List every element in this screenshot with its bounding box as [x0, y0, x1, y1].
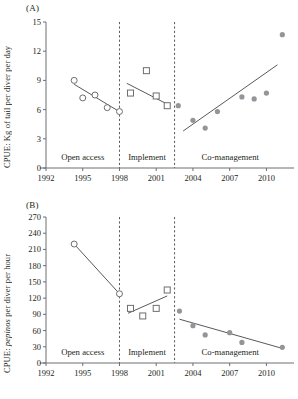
x-tick-label: 2007 [221, 368, 238, 378]
x-tick-label: 2007 [221, 173, 238, 183]
x-tick-label: 2010 [258, 368, 275, 378]
trend-line [74, 244, 119, 294]
zone-label: Implement [128, 152, 166, 162]
data-point-filled-circle [239, 340, 244, 345]
y-tick-label: 0 [37, 358, 41, 368]
zone-label: Co-management [202, 152, 260, 162]
x-tick-label: 1998 [111, 173, 128, 183]
y-tick-label: 90 [33, 309, 42, 319]
panel-a: (A) CPUE: Kg of tail per diver per day 0… [0, 0, 298, 199]
data-point-open-square [127, 90, 133, 96]
trend-line [183, 65, 277, 131]
x-tick-label: 2004 [184, 368, 202, 378]
data-point-open-square [164, 287, 170, 293]
data-point-open-square [140, 313, 146, 319]
zone-label: Co-management [202, 347, 260, 357]
x-tick-label: 1992 [38, 368, 55, 378]
panel-b: (B) CPUE: pepinos per diver per hour 030… [0, 199, 298, 398]
zone-label: Implement [128, 347, 166, 357]
y-tick-label: 150 [28, 277, 41, 287]
data-point-open-square [143, 68, 149, 74]
panel-a-plot-area: 036912151992199519982001200420072010Open… [0, 0, 298, 199]
y-tick-label: 3 [37, 134, 41, 144]
y-tick-label: 9 [37, 75, 41, 85]
data-point-filled-circle [280, 345, 285, 350]
x-tick-label: 2010 [258, 173, 275, 183]
data-point-filled-circle [227, 330, 232, 335]
x-tick-label: 1995 [74, 173, 91, 183]
y-tick-label: 180 [28, 261, 41, 271]
y-tick-label: 30 [33, 342, 42, 352]
x-tick-label: 2001 [148, 173, 165, 183]
data-point-filled-circle [280, 32, 285, 37]
data-point-open-circle [71, 241, 77, 247]
y-tick-label: 0 [37, 163, 41, 173]
data-point-open-circle [80, 95, 86, 101]
data-point-open-circle [116, 109, 122, 115]
data-point-filled-circle [177, 308, 182, 313]
y-tick-label: 6 [37, 105, 41, 115]
data-point-filled-circle [190, 118, 195, 123]
data-point-open-square [153, 93, 159, 99]
data-point-open-circle [104, 105, 110, 111]
data-point-filled-circle [239, 94, 244, 99]
x-tick-label: 1998 [111, 368, 128, 378]
y-tick-label: 60 [33, 326, 42, 336]
data-point-open-square [127, 305, 133, 311]
data-point-filled-circle [203, 332, 208, 337]
data-point-filled-circle [190, 323, 195, 328]
data-point-filled-circle [203, 125, 208, 130]
zone-label: Open access [61, 347, 105, 357]
y-tick-label: 120 [28, 293, 41, 303]
x-tick-label: 1995 [74, 368, 91, 378]
y-tick-label: 12 [33, 46, 42, 56]
data-point-open-circle [116, 291, 122, 297]
y-tick-label: 270 [28, 212, 41, 222]
panel-b-plot-area: 0306090120150180210240270199219951998200… [0, 199, 298, 398]
x-tick-label: 1992 [38, 173, 55, 183]
x-tick-label: 2004 [184, 173, 202, 183]
data-point-open-square [164, 103, 170, 109]
data-point-open-square [153, 305, 159, 311]
data-point-filled-circle [176, 103, 181, 108]
zone-label: Open access [61, 152, 105, 162]
data-point-open-circle [92, 92, 98, 98]
y-tick-label: 240 [28, 228, 41, 238]
data-point-filled-circle [215, 109, 220, 114]
y-tick-label: 210 [28, 244, 41, 254]
data-point-open-circle [71, 77, 77, 83]
x-tick-label: 2001 [148, 368, 165, 378]
y-tick-label: 15 [33, 17, 42, 27]
data-point-filled-circle [252, 96, 257, 101]
data-point-filled-circle [264, 90, 269, 95]
